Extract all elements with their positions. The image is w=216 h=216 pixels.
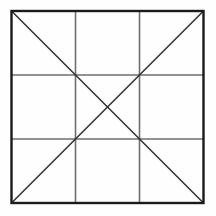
figure-container	[0, 0, 216, 216]
geometric-figure	[0, 0, 216, 216]
